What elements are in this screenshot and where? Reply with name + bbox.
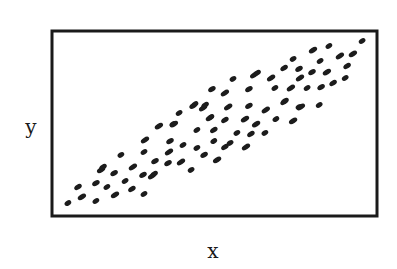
- data-point: [279, 64, 289, 73]
- data-point: [261, 129, 270, 137]
- data-point: [244, 102, 254, 111]
- data-point: [91, 179, 101, 188]
- data-point: [103, 183, 112, 191]
- data-point: [121, 177, 130, 185]
- data-point: [73, 183, 83, 192]
- data-point: [316, 83, 326, 92]
- data-point: [289, 55, 298, 63]
- data-point: [77, 192, 87, 201]
- data-point: [240, 115, 250, 124]
- data-point: [163, 159, 173, 168]
- data-point: [109, 169, 119, 178]
- data-point: [246, 130, 256, 139]
- data-point: [322, 68, 332, 77]
- data-point: [187, 166, 196, 174]
- data-point: [138, 171, 148, 180]
- data-point: [128, 162, 138, 171]
- data-point: [193, 126, 202, 134]
- y-axis-label: y: [24, 115, 37, 139]
- data-point: [335, 51, 345, 60]
- data-point: [261, 105, 271, 114]
- data-point: [207, 85, 217, 94]
- data-point: [193, 144, 202, 152]
- data-point: [175, 109, 184, 117]
- data-point: [328, 79, 338, 88]
- data-point: [294, 65, 304, 74]
- data-point: [286, 83, 296, 92]
- data-point: [154, 122, 164, 131]
- data-point: [209, 126, 219, 135]
- data-point: [165, 137, 175, 146]
- data-point: [325, 42, 334, 50]
- data-point: [266, 73, 276, 82]
- data-point: [64, 199, 73, 207]
- data-point: [342, 62, 352, 71]
- data-point: [150, 157, 160, 166]
- data-point: [199, 151, 209, 160]
- data-point: [110, 190, 120, 199]
- scatter-points: [64, 37, 367, 207]
- data-point: [341, 74, 350, 82]
- data-point: [295, 73, 305, 82]
- data-point: [223, 102, 233, 111]
- data-point: [358, 37, 367, 45]
- data-point: [209, 137, 218, 145]
- data-point: [303, 84, 312, 92]
- data-point: [241, 142, 251, 151]
- data-point: [307, 68, 317, 77]
- data-point: [176, 157, 186, 166]
- data-point: [251, 120, 261, 129]
- data-point: [233, 129, 242, 137]
- data-point: [288, 116, 298, 125]
- scatter-chart: y x: [0, 0, 397, 269]
- x-axis-label: x: [207, 239, 219, 263]
- data-point: [308, 46, 318, 55]
- data-point: [140, 190, 149, 198]
- data-point: [348, 49, 358, 58]
- data-point: [140, 135, 150, 144]
- data-point: [179, 141, 188, 149]
- data-point: [229, 75, 238, 83]
- data-point: [244, 85, 254, 94]
- data-point: [220, 88, 230, 97]
- data-point: [117, 151, 126, 159]
- data-point: [140, 148, 149, 156]
- data-point: [220, 116, 230, 125]
- data-point: [164, 147, 174, 156]
- data-point: [272, 115, 281, 123]
- data-point: [212, 155, 222, 164]
- plot-frame: [52, 31, 377, 216]
- data-point: [92, 197, 101, 205]
- data-point: [315, 101, 324, 109]
- data-point: [127, 185, 137, 194]
- data-point: [316, 57, 325, 65]
- data-point: [271, 84, 280, 92]
